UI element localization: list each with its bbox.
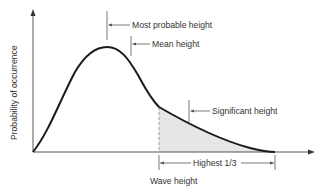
mean-arrow-icon <box>132 43 136 46</box>
mean-label: Mean height <box>152 39 200 49</box>
x-axis-arrow-icon <box>308 150 315 155</box>
wave-height-diagram: Most probable height Mean height Signifi… <box>0 0 324 195</box>
significant-arrow-icon <box>190 110 194 113</box>
most-probable-arrow-icon <box>108 24 112 27</box>
distribution-curve <box>33 47 275 152</box>
highest-third-left-arrow-icon <box>160 162 164 165</box>
significant-label: Significant height <box>212 106 278 116</box>
y-axis-arrow-icon <box>31 9 36 16</box>
x-axis-label: Wave height <box>150 176 198 186</box>
y-axis-label: Probability of occurrence <box>9 45 19 140</box>
highest-third-right-arrow-icon <box>270 162 274 165</box>
most-probable-label: Most probable height <box>132 20 213 30</box>
highest-third-label: Highest 1/3 <box>193 158 237 168</box>
